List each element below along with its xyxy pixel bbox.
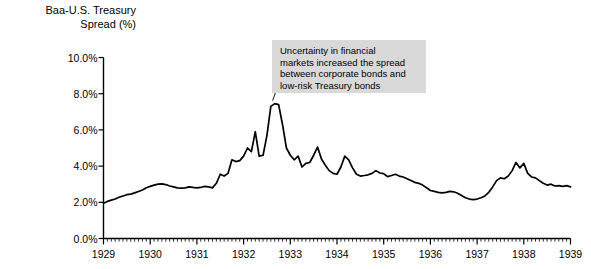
y-tick-label: 4.0%: [54, 160, 98, 172]
annotation-callout: Uncertainty in financial markets increas…: [272, 40, 426, 93]
x-tick-label: 1933: [266, 248, 314, 260]
y-tick-label: 10.0%: [54, 52, 98, 64]
x-tick-label: 1938: [500, 248, 548, 260]
y-tick-label: 0.0%: [54, 233, 98, 245]
y-tick-label: 8.0%: [54, 88, 98, 100]
y-tick-label: 6.0%: [54, 124, 98, 136]
x-tick-label: 1929: [80, 248, 128, 260]
x-tick-label: 1935: [360, 248, 408, 260]
spread-line: [104, 104, 571, 204]
chart-container: Baa-U.S. Treasury Spread (%) 0.0%2.0%4.0…: [0, 0, 591, 269]
x-tick-label: 1931: [173, 248, 221, 260]
x-tick-label: 1937: [453, 248, 501, 260]
x-tick-label: 1934: [313, 248, 361, 260]
x-tick-label: 1939: [547, 248, 591, 260]
x-tick-label: 1936: [406, 248, 454, 260]
x-tick-label: 1932: [220, 248, 268, 260]
y-tick-label: 2.0%: [54, 196, 98, 208]
x-tick-label: 1930: [126, 248, 174, 260]
y-axis-title: Baa-U.S. Treasury Spread (%): [8, 4, 136, 31]
